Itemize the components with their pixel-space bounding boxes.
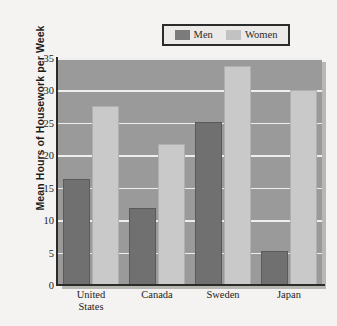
bar-group bbox=[256, 58, 322, 285]
bar-women-sweden bbox=[224, 66, 251, 285]
legend-label-men: Men bbox=[194, 30, 213, 41]
x-axis-tick-label-line1: Sweden bbox=[206, 289, 239, 300]
bar-men-united-states bbox=[63, 179, 90, 285]
y-axis-tick-label: 20 bbox=[44, 150, 55, 161]
bar-men-canada bbox=[129, 208, 156, 285]
y-axis-line bbox=[56, 57, 58, 286]
x-axis-tick-label-line2: States bbox=[58, 301, 124, 313]
legend-entry-women: Women bbox=[226, 30, 277, 41]
plot-area bbox=[58, 58, 322, 285]
x-axis-tick-label: UnitedStates bbox=[58, 289, 124, 312]
legend-swatch-women-icon bbox=[226, 30, 241, 40]
bar-group bbox=[190, 58, 256, 285]
legend-entry-men: Men bbox=[175, 30, 213, 41]
chart-legend: Men Women bbox=[162, 24, 290, 46]
bar-groups bbox=[58, 58, 322, 285]
bar-women-canada bbox=[158, 144, 185, 285]
legend-label-women: Women bbox=[245, 30, 277, 41]
x-axis-tick-labels: UnitedStatesCanadaSwedenJapan bbox=[58, 289, 322, 312]
bar-women-japan bbox=[290, 90, 317, 285]
x-axis-tick-label: Sweden bbox=[190, 289, 256, 312]
x-axis-tick-label-line1: Japan bbox=[277, 289, 301, 300]
y-axis-tick-label: 30 bbox=[44, 85, 55, 96]
chart-figure: Men Women Mean Hours of Housework per We… bbox=[0, 0, 337, 326]
legend-swatch-men-icon bbox=[175, 30, 190, 40]
y-axis-tick-label: 25 bbox=[44, 117, 55, 128]
x-axis-tick-label-line1: Canada bbox=[141, 289, 173, 300]
x-axis-line bbox=[57, 284, 325, 286]
bar-men-japan bbox=[261, 251, 288, 285]
x-axis-tick-label: Canada bbox=[124, 289, 190, 312]
bar-group bbox=[58, 58, 124, 285]
bar-women-united-states bbox=[92, 106, 119, 285]
bar-men-sweden bbox=[195, 122, 222, 285]
y-axis-tick-label: 0 bbox=[49, 280, 54, 291]
y-axis-tick-label: 5 bbox=[49, 247, 54, 258]
y-axis-tick-label: 15 bbox=[44, 182, 55, 193]
bar-group bbox=[124, 58, 190, 285]
y-axis-tick-labels: 05101520253035 bbox=[32, 58, 54, 285]
x-axis-tick-label-line1: United bbox=[77, 289, 106, 300]
x-axis-tick-label: Japan bbox=[256, 289, 322, 312]
y-axis-tick-label: 10 bbox=[44, 215, 55, 226]
y-axis-tick-label: 35 bbox=[44, 53, 55, 64]
